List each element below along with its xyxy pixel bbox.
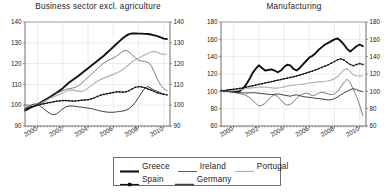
svg-text:60: 60 — [370, 122, 378, 129]
legend-label-ireland: Ireland — [200, 162, 226, 171]
svg-text:60: 60 — [210, 122, 218, 129]
figure-container: Business sector excl. agriculture 909010… — [0, 0, 392, 195]
legend-item-portugal: Portugal — [235, 159, 289, 173]
legend-row-2: Spain Germany — [114, 172, 280, 186]
legend-label-portugal: Portugal — [257, 162, 289, 171]
svg-text:100: 100 — [207, 88, 218, 95]
svg-text:140: 140 — [174, 18, 185, 25]
plot-area-manufacturing: 6060808010010012012014014016016018018020… — [196, 18, 392, 156]
legend-label-spain: Spain — [142, 175, 164, 184]
legend-row-1: Greece Ireland Portugal — [114, 159, 280, 173]
legend-label-greece: Greece — [142, 162, 170, 171]
solid-medium-line-swatch-icon — [175, 175, 194, 184]
svg-text:90: 90 — [174, 122, 182, 129]
svg-text:90: 90 — [14, 122, 22, 129]
svg-text:140: 140 — [207, 53, 218, 60]
panel-title-left: Business sector excl. agriculture — [0, 2, 196, 11]
svg-text:110: 110 — [11, 81, 22, 88]
svg-text:120: 120 — [370, 70, 381, 77]
svg-text:80: 80 — [210, 105, 218, 112]
svg-text:180: 180 — [207, 18, 218, 25]
legend-item-ireland: Ireland — [178, 159, 226, 173]
chart-panel-manufacturing: Manufacturing 60608080100100120120140140… — [196, 0, 392, 158]
chart-panel-business-sector: Business sector excl. agriculture 909010… — [0, 0, 196, 158]
plot-area-business-sector: 9090100100110110120120130130140140200020… — [0, 18, 196, 156]
marked-line-swatch-icon — [120, 175, 139, 184]
chart-legend: Greece Ireland Portugal — [113, 157, 281, 186]
svg-text:140: 140 — [11, 18, 22, 25]
legend-label-germany: Germany — [197, 175, 232, 184]
legend-item-greece: Greece — [120, 159, 170, 173]
svg-text:160: 160 — [370, 36, 381, 43]
svg-text:120: 120 — [207, 70, 218, 77]
svg-text:130: 130 — [11, 39, 22, 46]
svg-text:140: 140 — [370, 53, 381, 60]
svg-text:100: 100 — [174, 101, 185, 108]
svg-text:160: 160 — [207, 36, 218, 43]
svg-text:120: 120 — [174, 60, 185, 67]
svg-text:100: 100 — [11, 101, 22, 108]
svg-text:130: 130 — [174, 39, 185, 46]
solid-thin-line-swatch-icon — [178, 162, 197, 171]
panel-title-right: Manufacturing — [196, 2, 392, 11]
legend-item-spain: Spain — [120, 172, 164, 186]
solid-thick-line-swatch-icon — [120, 162, 139, 171]
svg-text:100: 100 — [370, 88, 381, 95]
svg-text:80: 80 — [370, 105, 378, 112]
svg-text:180: 180 — [370, 18, 381, 25]
legend-item-germany: Germany — [175, 172, 232, 186]
solid-light-line-swatch-icon — [235, 162, 254, 171]
svg-text:110: 110 — [174, 81, 185, 88]
svg-text:120: 120 — [11, 60, 22, 67]
